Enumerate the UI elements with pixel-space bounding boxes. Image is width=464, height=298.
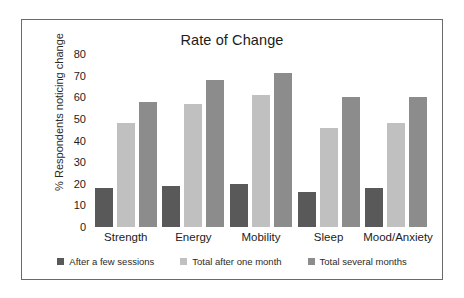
legend-item[interactable]: After a few sessions: [57, 256, 154, 267]
y-tick-label: 30: [52, 156, 86, 168]
x-axis-label: Strength: [93, 231, 159, 243]
y-tick-label: 80: [52, 48, 86, 60]
bar[interactable]: [117, 123, 135, 227]
bar[interactable]: [252, 95, 270, 227]
legend-item[interactable]: Total several months: [308, 256, 407, 267]
y-tick-label: 50: [52, 113, 86, 125]
x-axis-labels: StrengthEnergyMobilitySleepMood/Anxiety: [92, 231, 430, 243]
bar-group: [365, 54, 427, 227]
bar[interactable]: [409, 97, 427, 227]
bar-group: [230, 54, 292, 227]
y-tick-label: 10: [52, 199, 86, 211]
bar[interactable]: [387, 123, 405, 227]
legend-swatch-icon: [308, 258, 315, 265]
y-tick-label: 60: [52, 91, 86, 103]
legend-item[interactable]: Total after one month: [180, 256, 281, 267]
x-axis-label: Sleep: [296, 231, 362, 243]
bar[interactable]: [274, 73, 292, 227]
bar[interactable]: [342, 97, 360, 227]
bar[interactable]: [298, 192, 316, 227]
bar[interactable]: [139, 102, 157, 227]
legend-swatch-icon: [180, 258, 187, 265]
bar[interactable]: [206, 80, 224, 227]
axis-baseline: [92, 227, 430, 228]
legend-label: Total several months: [320, 256, 407, 267]
bar[interactable]: [184, 104, 202, 227]
y-axis-ticks: 01020304050607080: [52, 20, 86, 279]
bar-groups: [92, 54, 430, 227]
bar-group: [162, 54, 224, 227]
legend-swatch-icon: [57, 258, 64, 265]
bar[interactable]: [320, 128, 338, 227]
x-axis-label: Mobility: [228, 231, 294, 243]
bar[interactable]: [95, 188, 113, 227]
bar[interactable]: [162, 186, 180, 227]
y-tick-label: 20: [52, 178, 86, 190]
bar[interactable]: [365, 188, 383, 227]
chart-frame: Rate of Change % Respondents noticing ch…: [21, 19, 443, 280]
plot-area: [92, 54, 430, 227]
y-tick-label: 40: [52, 135, 86, 147]
bar[interactable]: [230, 184, 248, 227]
bar-group: [298, 54, 360, 227]
bar-group: [95, 54, 157, 227]
y-tick-label: 70: [52, 70, 86, 82]
legend-label: After a few sessions: [69, 256, 154, 267]
x-axis-label: Mood/Anxiety: [363, 231, 429, 243]
x-axis-label: Energy: [160, 231, 226, 243]
y-tick-label: 0: [52, 221, 86, 233]
chart-legend: After a few sessionsTotal after one mont…: [22, 256, 442, 267]
legend-label: Total after one month: [192, 256, 281, 267]
